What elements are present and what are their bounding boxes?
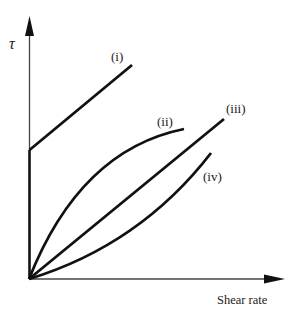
- curve-iv-label: (iv): [203, 169, 222, 184]
- curve-ii: [29, 129, 184, 279]
- curve-iii-label: (iii): [226, 101, 246, 116]
- curve-i: [30, 65, 133, 150]
- curve-iii: [29, 119, 224, 279]
- curve-ii-label: (ii): [157, 114, 173, 129]
- x-axis-arrow-icon: [264, 275, 285, 284]
- curve-i-label: (i): [111, 49, 123, 64]
- y-axis-label: τ: [9, 35, 16, 52]
- curve-iv: [29, 153, 211, 279]
- x-axis: [29, 275, 285, 284]
- x-axis-label: Shear rate: [217, 293, 268, 307]
- y-axis-arrow-icon: [25, 16, 34, 36]
- flow-curve-diagram: τ Shear rate (i) (ii) (iii) (iv): [0, 0, 298, 317]
